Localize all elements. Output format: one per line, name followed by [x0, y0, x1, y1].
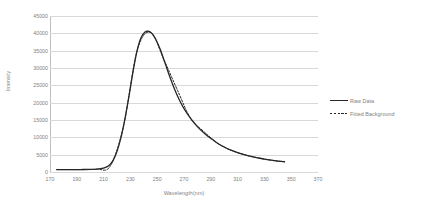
y-tick-label: 45000	[4, 13, 48, 19]
plot-area	[50, 16, 318, 172]
legend-swatch-dashed-icon	[330, 111, 348, 117]
x-tick-label: 170	[35, 176, 65, 183]
legend-swatch-solid-icon	[330, 98, 348, 104]
x-tick-label: 250	[142, 176, 172, 183]
y-tick-label: 0	[4, 169, 48, 175]
y-tick-label: 10000	[4, 134, 48, 140]
chart-legend: Raw DataFitted Background	[330, 94, 420, 120]
x-tick-label: 210	[89, 176, 119, 183]
y-tick-label: 15000	[4, 117, 48, 123]
x-tick-label: 230	[115, 176, 145, 183]
x-tick-label: 370	[303, 176, 333, 183]
y-tick-label: 25000	[4, 82, 48, 88]
series-line-1	[57, 32, 285, 170]
legend-label: Fitted Background	[350, 111, 395, 117]
series-line-0	[57, 31, 285, 169]
x-tick-label: 350	[276, 176, 306, 183]
gridline	[50, 172, 318, 173]
x-axis-title: Wavelength(nm)	[50, 190, 318, 196]
series-lines	[50, 16, 318, 172]
x-tick-label: 330	[249, 176, 279, 183]
x-tick-label: 310	[223, 176, 253, 183]
legend-label: Raw Data	[350, 98, 374, 104]
y-tick-label: 30000	[4, 65, 48, 71]
y-tick-label: 5000	[4, 152, 48, 158]
y-tick-label: 35000	[4, 48, 48, 54]
y-tick-label: 40000	[4, 30, 48, 36]
x-tick-label: 190	[62, 176, 92, 183]
x-tick-label: 270	[169, 176, 199, 183]
x-tick-label: 290	[196, 176, 226, 183]
y-tick-label: 20000	[4, 100, 48, 106]
legend-item: Raw Data	[330, 94, 420, 107]
legend-item: Fitted Background	[330, 107, 420, 120]
chart-container: Intensity 050001000015000200002500030000…	[0, 0, 421, 212]
